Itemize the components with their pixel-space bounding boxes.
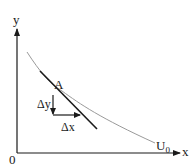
origin-label: 0	[9, 152, 16, 167]
indifference-curve-diagram: y x 0 A Δy Δx U0	[0, 0, 194, 167]
y-axis-label: y	[13, 12, 20, 27]
delta-y-label: Δy	[37, 97, 51, 111]
point-a-label: A	[54, 77, 64, 92]
curve-label-subscript: 0	[165, 145, 170, 155]
x-axis-label: x	[182, 144, 189, 159]
curve-label: U0	[156, 138, 170, 155]
delta-x-label: Δx	[61, 120, 75, 134]
